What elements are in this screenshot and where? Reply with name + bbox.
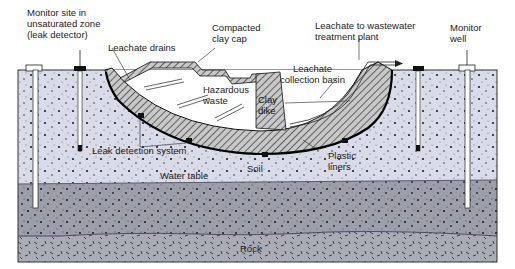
label-soil: Soil: [247, 163, 263, 174]
label-leachate-basin: Leachate collection basin: [280, 63, 345, 85]
label-leak-detection: Leak detection system: [92, 145, 187, 156]
label-clay-cap: Compacted clay cap: [212, 22, 261, 44]
label-rock: Rock: [240, 243, 262, 254]
leak-detector-pad: [186, 138, 192, 143]
saturated-zone: [18, 180, 497, 236]
leak-detector-pad: [138, 113, 144, 118]
flow-arrow-icon: [395, 60, 403, 67]
label-hazardous-waste: Hazardous waste: [203, 84, 249, 106]
label-monitor-well: Monitor well: [450, 22, 482, 44]
leak-detector-pad: [342, 138, 348, 143]
label-leachate-to-plant: Leachate to wastewater treatment plant: [315, 20, 415, 42]
leak-detector-pad: [262, 152, 268, 157]
label-leachate-drains: Leachate drains: [108, 42, 176, 53]
label-water-table: Water table: [160, 170, 208, 181]
label-monitor-site: Monitor site in unsaturated zone (leak d…: [27, 7, 100, 40]
label-clay-dike: Clay dike: [258, 94, 277, 116]
label-plastic-liners: Plastic liners: [328, 150, 356, 172]
